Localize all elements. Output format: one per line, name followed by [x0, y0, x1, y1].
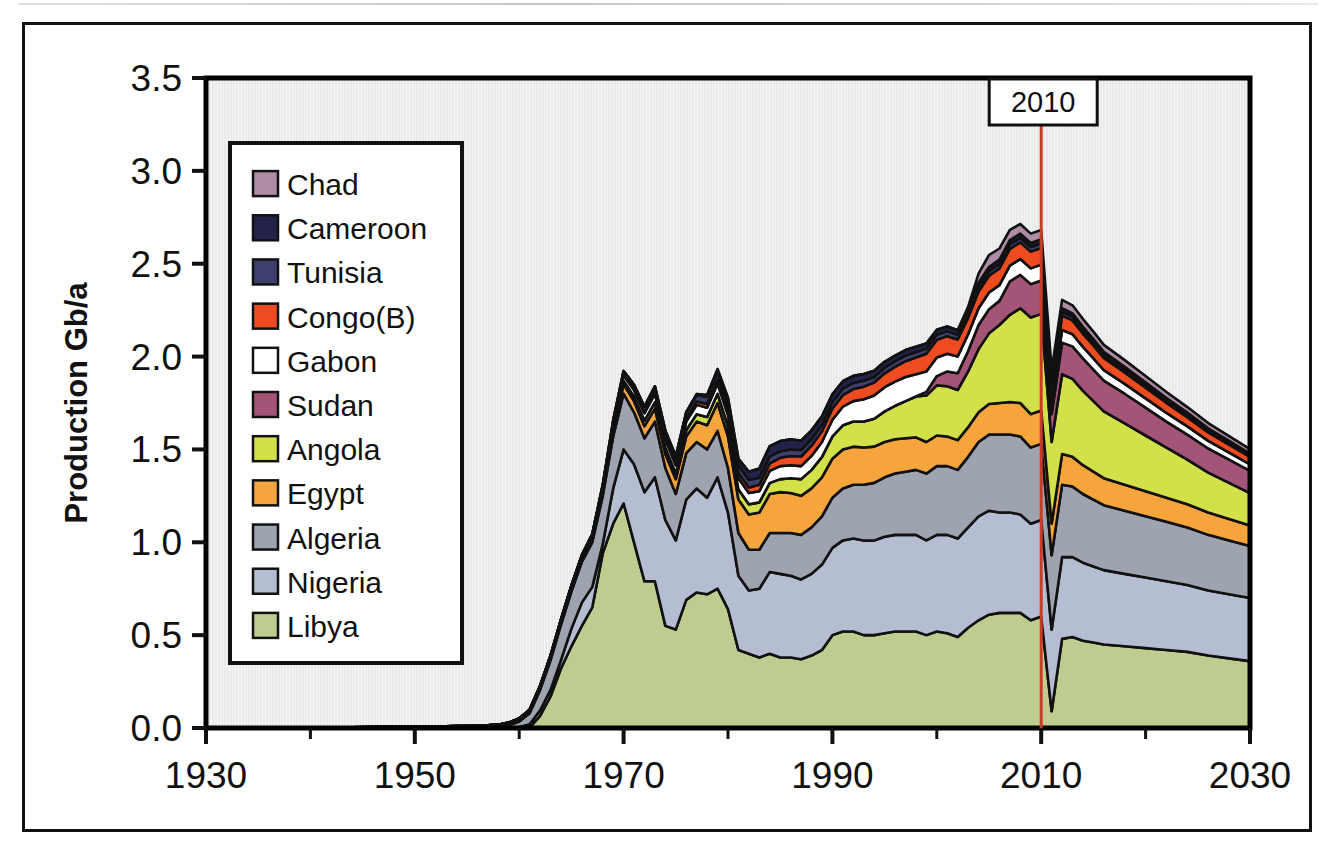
y-tick-label: 0.0 [131, 708, 182, 749]
legend-label-libya: Libya [287, 610, 359, 643]
x-tick-label: 1950 [374, 755, 456, 796]
legend-label-sudan: Sudan [287, 389, 374, 422]
legend-swatch-sudan [253, 392, 278, 417]
legend-label-angola: Angola [287, 433, 381, 466]
legend-swatch-cameroon [253, 215, 278, 240]
legend-label-cameroon: Cameroon [287, 212, 427, 245]
legend-label-algeria: Algeria [287, 522, 381, 555]
legend-swatch-tunisia [253, 259, 278, 284]
legend-swatch-algeria [253, 525, 278, 550]
legend-label-gabon: Gabon [287, 345, 377, 378]
legend: ChadCameroonTunisiaCongo(B)GabonSudanAng… [230, 143, 462, 663]
legend-swatch-congo-b- [253, 304, 278, 329]
legend-swatch-chad [253, 171, 278, 196]
y-tick-label: 1.0 [131, 522, 182, 563]
y-tick-label: 0.5 [131, 615, 182, 656]
legend-swatch-angola [253, 436, 278, 461]
x-axis: 193019501970199020102030 [165, 728, 1291, 796]
y-tick-label: 3.5 [131, 58, 182, 99]
y-tick-label: 3.0 [131, 151, 182, 192]
scan-artifact-line [18, 3, 1318, 5]
x-tick-label: 1930 [165, 755, 247, 796]
legend-label-tunisia: Tunisia [287, 256, 383, 289]
legend-label-chad: Chad [287, 168, 359, 201]
legend-label-egypt: Egypt [287, 477, 364, 510]
y-axis-title: Production Gb/a [59, 282, 94, 524]
x-tick-label: 1990 [791, 755, 873, 796]
chart-page: 0.00.51.01.52.02.53.03.5Production Gb/a1… [0, 0, 1333, 859]
figure-frame: 0.00.51.01.52.02.53.03.5Production Gb/a1… [22, 22, 1312, 832]
legend-swatch-nigeria [253, 569, 278, 594]
x-tick-label: 1970 [582, 755, 664, 796]
y-tick-label: 2.5 [131, 244, 182, 285]
legend-swatch-egypt [253, 480, 278, 505]
legend-label-congo-b-: Congo(B) [287, 301, 415, 334]
legend-swatch-libya [253, 613, 278, 638]
x-tick-label: 2030 [1209, 755, 1291, 796]
legend-swatch-gabon [253, 348, 278, 373]
legend-label-nigeria: Nigeria [287, 566, 382, 599]
x-tick-label: 2010 [1000, 755, 1082, 796]
y-tick-label: 2.0 [131, 337, 182, 378]
year-marker-label: 2010 [1011, 86, 1076, 118]
chart-svg: 0.00.51.01.52.02.53.03.5Production Gb/a1… [25, 25, 1315, 835]
y-tick-label: 1.5 [131, 429, 182, 470]
y-axis: 0.00.51.01.52.02.53.03.5 [131, 58, 206, 749]
stacked-area-chart: 0.00.51.01.52.02.53.03.5Production Gb/a1… [25, 25, 1315, 835]
